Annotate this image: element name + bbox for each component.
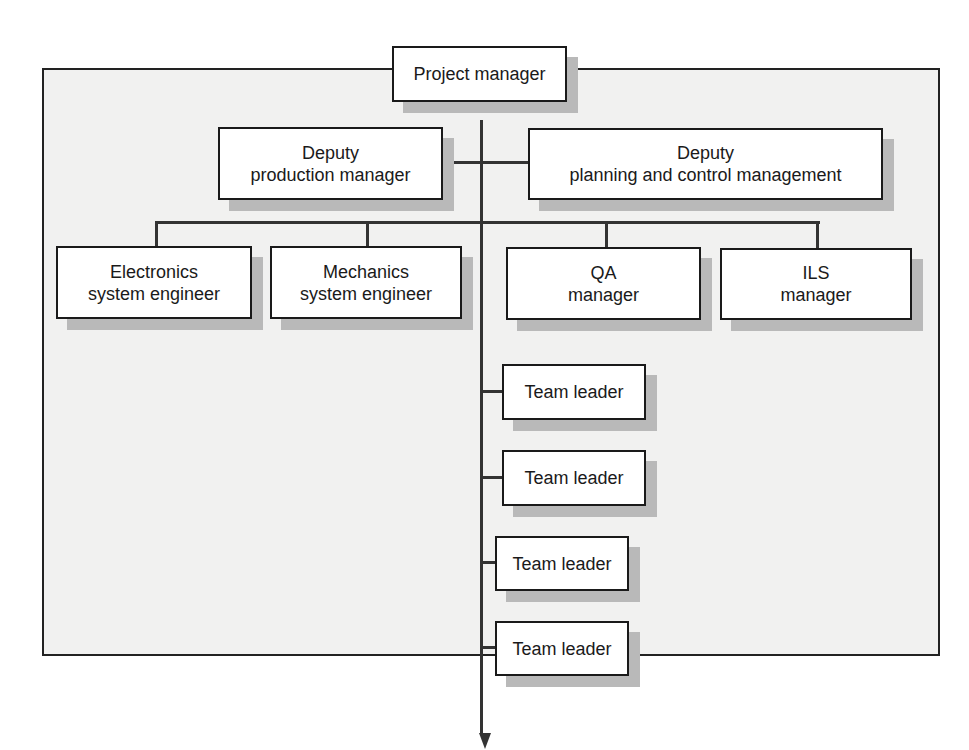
node-label: Team leader: [524, 467, 623, 489]
node-label-line1: QA: [590, 262, 616, 284]
qa-drop: [605, 221, 608, 249]
node-label-line2: manager: [568, 284, 639, 306]
node-deputy-planning-control: Deputy planning and control management: [528, 128, 883, 200]
node-label-line2: planning and control management: [569, 164, 841, 186]
node-deputy-production-manager: Deputy production manager: [218, 127, 443, 200]
node-label-line1: Electronics: [110, 261, 198, 283]
node-label-line1: Deputy: [302, 142, 359, 164]
node-label-line2: system engineer: [300, 283, 432, 305]
node-label: Team leader: [512, 553, 611, 575]
node-team-leader-2: Team leader: [502, 450, 646, 506]
node-label-line1: ILS: [802, 262, 829, 284]
node-team-leader-4: Team leader: [495, 621, 629, 676]
managers-bus-connector: [155, 221, 820, 224]
node-team-leader-1: Team leader: [502, 364, 646, 420]
node-label-line2: system engineer: [88, 283, 220, 305]
node-label-line2: manager: [780, 284, 851, 306]
node-qa-manager: QA manager: [506, 247, 701, 320]
deputies-connector: [440, 161, 530, 164]
node-label-line1: Mechanics: [323, 261, 409, 283]
team-leader-1-stub: [480, 390, 502, 393]
ils-drop: [816, 221, 819, 249]
node-label-line2: production manager: [250, 164, 410, 186]
node-mechanics-system-engineer: Mechanics system engineer: [270, 246, 462, 319]
node-team-leader-3: Team leader: [495, 536, 629, 591]
node-label: Project manager: [413, 63, 545, 85]
mechanics-drop: [366, 221, 369, 249]
node-electronics-system-engineer: Electronics system engineer: [56, 246, 252, 319]
team-leader-2-stub: [480, 476, 502, 479]
continuation-arrow-icon: [479, 733, 491, 749]
node-label: Team leader: [512, 638, 611, 660]
node-label-line1: Deputy: [677, 142, 734, 164]
node-ils-manager: ILS manager: [720, 248, 912, 320]
node-label: Team leader: [524, 381, 623, 403]
electronics-drop: [155, 221, 158, 249]
main-spine-connector: [480, 120, 483, 735]
node-project-manager: Project manager: [392, 46, 567, 102]
